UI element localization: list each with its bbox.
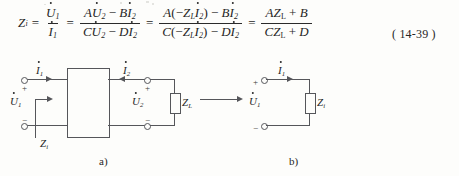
u2-subscript: 2 bbox=[101, 12, 105, 21]
i2-subscript: 2 bbox=[132, 12, 136, 21]
i2-subscript: 2 bbox=[234, 12, 238, 21]
arrow-shaft bbox=[200, 99, 238, 100]
current-1-label: I1 bbox=[36, 64, 43, 77]
coef-a: A bbox=[84, 5, 92, 20]
u2-symbol: U bbox=[92, 6, 101, 21]
wire-vert-top bbox=[309, 79, 310, 93]
i1-symbol: I bbox=[36, 64, 40, 76]
i2-subscript: 2 bbox=[127, 70, 131, 77]
i1-subscript: 1 bbox=[282, 70, 286, 77]
fraction-numerator: U1 bbox=[45, 6, 61, 23]
zi-subscript: i bbox=[323, 102, 325, 109]
fraction-numerator: AZL + B bbox=[263, 6, 311, 23]
i1-symbol: I bbox=[278, 64, 282, 76]
minus-op: − bbox=[108, 24, 115, 39]
paren-close: ) bbox=[203, 5, 207, 20]
i2-symbol: I bbox=[128, 25, 132, 40]
wire-input-bottom bbox=[25, 125, 67, 126]
fraction-final-result: AZL + B CZL + D bbox=[259, 6, 313, 40]
polarity-minus: − bbox=[253, 124, 258, 133]
i1-symbol: I bbox=[49, 25, 53, 40]
current-arrow-head bbox=[287, 76, 293, 82]
paren-close: ) bbox=[203, 24, 207, 39]
u1-symbol: U bbox=[46, 6, 55, 21]
u2-subscript: 2 bbox=[140, 101, 144, 108]
wire-load-vert-top bbox=[174, 79, 175, 93]
current-1-arrow-head bbox=[46, 76, 52, 82]
input-impedance-resistor bbox=[305, 93, 316, 114]
polarity-minus-input: − bbox=[22, 116, 27, 125]
equals-2: = bbox=[63, 15, 78, 31]
fraction-denominator: CZL + D bbox=[261, 23, 311, 41]
const-d: D bbox=[299, 24, 308, 39]
polarity-plus-output: + bbox=[145, 84, 150, 93]
u1-subscript: 1 bbox=[257, 101, 261, 108]
voltage-1-label: U1 bbox=[249, 95, 260, 108]
fraction-denominator: CU2 − DI2 bbox=[80, 23, 140, 41]
equation-14-39: Zi = U1 I1 = AU2 − BI2 CU2 − DI2 bbox=[18, 6, 314, 40]
i2-symbol: I bbox=[195, 25, 199, 40]
voltage-1-label: U1 bbox=[10, 95, 21, 108]
coef-d: D bbox=[221, 24, 230, 39]
i2-symbol: I bbox=[127, 6, 131, 21]
minus-op: − bbox=[176, 5, 183, 20]
coef-c: C bbox=[162, 24, 171, 39]
fraction-u1-over-i1: U1 I1 bbox=[43, 6, 63, 40]
fraction-substituted: A(−ZLI2) − BI2 C(−ZLI2) − DI2 bbox=[157, 6, 244, 40]
i2-subscript: 2 bbox=[235, 31, 239, 40]
equation-lhs: Zi bbox=[18, 15, 28, 31]
scan-speckle bbox=[146, 1, 149, 3]
input-impedance-label: Zi bbox=[40, 137, 48, 150]
coef-a: A bbox=[266, 5, 274, 20]
i1-subscript: 1 bbox=[40, 70, 44, 77]
polarity-minus-output: − bbox=[145, 116, 150, 125]
lhs-symbol: Z bbox=[18, 15, 25, 31]
zl-subscript: L bbox=[188, 102, 192, 109]
scan-speckle bbox=[152, 3, 154, 5]
current-1-arrow-shaft bbox=[33, 79, 47, 80]
load-impedance-label: ZL bbox=[182, 96, 192, 109]
current-arrow-shaft bbox=[274, 79, 288, 80]
u2-symbol: U bbox=[92, 25, 101, 40]
wire-load-top bbox=[150, 79, 175, 80]
minus-op: − bbox=[109, 5, 116, 20]
coef-d: D bbox=[119, 24, 128, 39]
polarity-plus-input: + bbox=[22, 84, 27, 93]
i1-subscript: 1 bbox=[53, 31, 57, 40]
fraction-abcd-over-cd: AU2 − BI2 CU2 − DI2 bbox=[78, 6, 142, 40]
coef-b: B bbox=[222, 5, 230, 20]
const-b: B bbox=[300, 5, 308, 20]
wire-load-vert-bottom bbox=[174, 112, 175, 126]
two-port-network-box bbox=[67, 68, 110, 138]
zl-subscript: L bbox=[280, 31, 285, 40]
plus-op: + bbox=[289, 24, 296, 39]
current-2-label: I2 bbox=[123, 64, 130, 77]
u2-subscript: 2 bbox=[101, 31, 105, 40]
zl-subscript: L bbox=[281, 12, 286, 21]
voltage-2-label: U2 bbox=[132, 95, 143, 108]
current-1-label: I1 bbox=[278, 64, 285, 77]
i2-subscript: 2 bbox=[133, 31, 137, 40]
equals-1: = bbox=[28, 15, 43, 31]
equals-3: = bbox=[142, 15, 157, 31]
minus-op: − bbox=[211, 5, 218, 20]
u1-symbol: U bbox=[10, 95, 18, 107]
fraction-denominator: C(−ZLI2) − DI2 bbox=[159, 23, 242, 41]
minus-op: − bbox=[211, 24, 218, 39]
figure-a-caption: a) bbox=[99, 155, 108, 167]
fraction-denominator: I1 bbox=[48, 23, 59, 41]
textbook-page: Zi = U1 I1 = AU2 − BI2 CU2 − DI2 bbox=[0, 0, 459, 176]
equals-4: = bbox=[244, 15, 259, 31]
arrow-head bbox=[237, 96, 243, 102]
plus-op: + bbox=[289, 5, 296, 20]
input-impedance-pointer-head bbox=[47, 96, 53, 102]
equation-number: ( 14-39 ) bbox=[392, 27, 436, 42]
wire-output-bottom bbox=[108, 125, 147, 126]
coef-c: C bbox=[83, 24, 92, 39]
wire-bottom bbox=[266, 125, 310, 126]
u1-symbol: U bbox=[249, 95, 257, 107]
zi-subscript: i bbox=[46, 143, 48, 150]
u2-symbol: U bbox=[132, 95, 140, 107]
input-impedance-label: Zi bbox=[317, 96, 325, 109]
coef-c: C bbox=[264, 24, 273, 39]
